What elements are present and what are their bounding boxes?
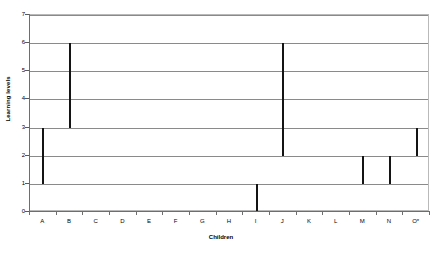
range-bar <box>282 43 284 156</box>
plot-area <box>29 14 429 211</box>
x-axis-tick-label: F <box>164 216 188 226</box>
x-axis-tick <box>322 211 323 215</box>
y-axis-tick-label: 2 <box>5 152 25 158</box>
x-axis-tick-label: N <box>377 216 401 226</box>
range-bar <box>389 156 391 184</box>
x-axis-tick-label: E <box>137 216 161 226</box>
x-axis-tick-label: M <box>350 216 374 226</box>
x-axis-tick <box>296 211 297 215</box>
x-axis-tick <box>162 211 163 215</box>
y-axis-tick-labels: 01234567 <box>0 14 25 211</box>
x-axis-tick <box>216 211 217 215</box>
y-axis-tick-label: 7 <box>5 11 25 17</box>
x-axis-tick-labels: ABCDEFGHIJKLMNO* <box>29 216 429 228</box>
x-axis-tick-label: A <box>30 216 54 226</box>
y-axis-tick-label: 6 <box>5 39 25 45</box>
x-axis-tick <box>376 211 377 215</box>
x-axis-tick <box>56 211 57 215</box>
x-axis-tick-label: H <box>217 216 241 226</box>
x-axis-tick <box>429 211 430 215</box>
x-axis-tick <box>189 211 190 215</box>
x-axis-tick <box>136 211 137 215</box>
x-axis-tick-label: D <box>110 216 134 226</box>
x-axis-tick-label: O* <box>404 216 428 226</box>
x-axis-tick-label: L <box>324 216 348 226</box>
x-axis-tick <box>109 211 110 215</box>
range-bar <box>256 184 258 212</box>
y-axis-tick-label: 0 <box>5 208 25 214</box>
x-axis-tick-label: K <box>297 216 321 226</box>
x-axis-tick <box>349 211 350 215</box>
x-axis-tick-label: G <box>190 216 214 226</box>
range-bar <box>42 128 44 184</box>
x-axis-tick <box>82 211 83 215</box>
x-axis-tick <box>402 211 403 215</box>
x-axis-tick-label: B <box>57 216 81 226</box>
x-axis-tick-marks <box>29 211 429 215</box>
y-axis-line <box>29 14 30 212</box>
range-bar <box>416 128 418 156</box>
y-axis-tick-label: 5 <box>5 67 25 73</box>
y-axis-tick-label: 1 <box>5 180 25 186</box>
x-axis-tick-label: C <box>84 216 108 226</box>
range-bar <box>69 43 71 127</box>
range-bar <box>362 156 364 184</box>
x-axis-tick <box>29 211 30 215</box>
x-axis-tick-label: I <box>244 216 268 226</box>
y-axis-tick-label: 3 <box>5 124 25 130</box>
y-axis-tick-label: 4 <box>5 95 25 101</box>
bar-series <box>30 15 428 210</box>
x-axis-tick <box>242 211 243 215</box>
x-axis-tick <box>269 211 270 215</box>
x-axis-title: Children <box>0 234 442 240</box>
chart-container: Learning levels 01234567 ABCDEFGHIJKLMNO… <box>0 0 442 254</box>
x-axis-tick-label: J <box>270 216 294 226</box>
